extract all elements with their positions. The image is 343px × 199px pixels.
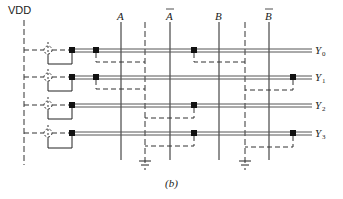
input-label-a-bar: A [165,10,173,22]
svg-text:3: 3 [322,133,326,141]
svg-text:0: 0 [322,50,326,58]
vdd-label: VDD [8,4,31,16]
decoder-circuit-diagram: VDD A A B B [0,0,343,199]
svg-text:1: 1 [322,77,326,85]
figure-caption: (b) [165,177,178,190]
svg-text:2: 2 [322,105,326,113]
input-label-a: A [116,10,124,22]
input-columns [121,22,269,163]
input-label-b: B [215,10,222,22]
input-label-b-bar: B [265,10,272,22]
